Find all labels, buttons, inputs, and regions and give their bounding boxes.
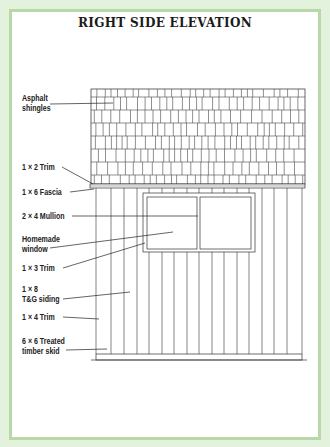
callout-skid-6x6: 6 × 6 Treated timber skid (22, 336, 65, 356)
callout-mullion-2x4: 2 × 4 Mullion (22, 211, 64, 221)
roof-shingles (91, 89, 305, 184)
elevation-drawing (0, 0, 330, 447)
callout-homemade-window: Homemade window (22, 234, 60, 254)
callout-trim-1x4: 1 × 4 Trim (22, 312, 55, 322)
window (143, 193, 255, 252)
fascia (90, 184, 305, 188)
callout-siding-1x8: 1 × 8 T&G siding (22, 284, 60, 304)
callout-fascia-1x6: 1 × 6 Fascia (22, 187, 62, 197)
callout-asphalt-shingles: Asphalt shingles (22, 93, 51, 113)
callout-trim-1x2: 1 × 2 Trim (22, 162, 55, 172)
callout-trim-1x3: 1 × 3 Trim (22, 263, 55, 273)
timber-skid (91, 354, 307, 360)
